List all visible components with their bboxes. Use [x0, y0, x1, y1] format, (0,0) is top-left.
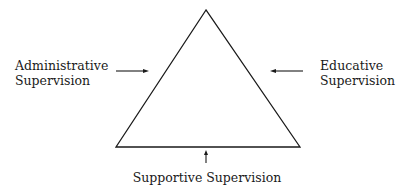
label-line-1: Educative — [320, 58, 395, 73]
arrow-up — [204, 150, 208, 163]
supportive-supervision-label: Supportive Supervision — [0, 170, 408, 185]
label-line-2: Supervision — [320, 73, 395, 88]
label-line-2: Supervision — [15, 73, 108, 88]
triangle — [116, 10, 300, 147]
arrow-left — [116, 69, 149, 73]
administrative-supervision-label: Administrative Supervision — [15, 58, 108, 88]
label-line-1: Administrative — [15, 58, 108, 73]
supervision-triangle-diagram — [0, 0, 408, 193]
educative-supervision-label: Educative Supervision — [320, 58, 395, 88]
arrow-right — [270, 69, 303, 73]
